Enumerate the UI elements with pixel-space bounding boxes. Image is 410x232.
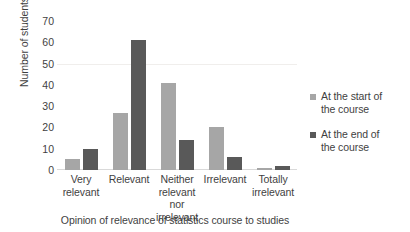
bar-start-relevant[interactable] [113, 113, 128, 170]
bar-group-totally-irrelevant [249, 21, 297, 170]
bar-start-neither[interactable] [161, 83, 176, 170]
bar-group-irrelevant [201, 21, 249, 170]
y-tick-20: 20 [42, 122, 54, 132]
plot-area [57, 21, 297, 170]
legend-label-end: At the end of the course [321, 128, 379, 153]
bar-start-irrelevant[interactable] [209, 127, 224, 170]
legend-item-end[interactable]: At the end of the course [310, 128, 410, 153]
legend-swatch-icon-start [310, 94, 316, 100]
bar-end-very-relevant[interactable] [83, 149, 98, 170]
bar-end-irrelevant[interactable] [227, 157, 242, 170]
y-tick-60: 60 [42, 37, 54, 47]
bar-end-relevant[interactable] [131, 40, 146, 170]
x-label-line: relevant [57, 186, 105, 199]
x-label-line: Totally [249, 173, 297, 186]
bar-start-very-relevant[interactable] [65, 159, 80, 170]
legend-item-start[interactable]: At the start of the course [310, 90, 410, 115]
x-label-line: Relevant [105, 173, 153, 186]
y-axis-title: Number of students [18, 0, 30, 114]
x-label-line: relevant nor [153, 186, 201, 211]
bar-group-very-relevant [57, 21, 105, 170]
y-tick-0: 0 [48, 165, 54, 175]
y-tick-10: 10 [42, 144, 54, 154]
legend-label-start: At the start of the course [321, 90, 382, 115]
x-label-line: Neither [153, 173, 201, 186]
bar-chart: Number of students 70 60 50 40 30 20 10 … [0, 0, 410, 232]
chart-legend: At the start of the course At the end of… [310, 90, 410, 166]
bar-group-neither [153, 21, 201, 170]
bar-end-neither[interactable] [179, 140, 194, 170]
y-tick-50: 50 [42, 59, 54, 69]
bar-end-totally-irrelevant[interactable] [275, 166, 290, 170]
x-label-line: Very [57, 173, 105, 186]
bar-group-relevant [105, 21, 153, 170]
x-axis-title: Opinion of relevance of statistics cours… [0, 214, 350, 226]
legend-swatch-icon-end [310, 132, 316, 138]
x-label-line: irrelevant [249, 186, 297, 199]
bar-groups [57, 21, 297, 170]
x-label-line: Irrelevant [201, 173, 249, 186]
y-tick-70: 70 [42, 16, 54, 26]
y-tick-30: 30 [42, 101, 54, 111]
bar-start-totally-irrelevant[interactable] [257, 168, 272, 170]
y-axis-tick-labels: 70 60 50 40 30 20 10 0 [30, 21, 54, 170]
y-tick-40: 40 [42, 80, 54, 90]
